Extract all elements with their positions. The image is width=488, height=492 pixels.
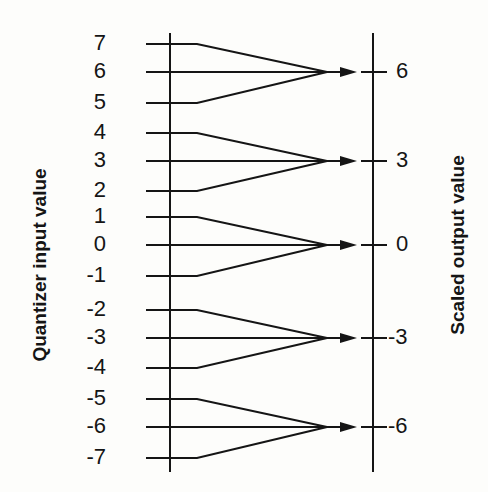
mapping-line <box>146 72 327 103</box>
mapping-line <box>146 399 327 427</box>
input-value-label: 7 <box>46 32 106 54</box>
input-value-label: 1 <box>46 205 106 227</box>
output-axis-title: Scaled output value <box>447 135 469 355</box>
input-value-label: 3 <box>46 149 106 171</box>
mapping-line <box>146 310 327 338</box>
input-value-label: 2 <box>46 179 106 201</box>
arrowhead-icon <box>340 333 357 343</box>
output-value-label: 0 <box>396 233 408 255</box>
input-value-label: 4 <box>46 121 106 143</box>
output-value-label: -3 <box>388 326 408 348</box>
mapping-line <box>146 217 327 245</box>
output-value-label: -6 <box>388 415 408 437</box>
mapping-line <box>146 44 327 72</box>
input-value-label: -6 <box>46 415 106 437</box>
mapping-lines <box>146 44 387 458</box>
mapping-line <box>146 427 327 458</box>
arrowhead-icon <box>340 156 357 166</box>
input-axis-title: Quantizer input value <box>29 155 51 375</box>
input-value-label: 6 <box>46 60 106 82</box>
output-value-label: 3 <box>396 149 408 171</box>
input-value-label: 5 <box>46 91 106 113</box>
arrowhead-icon <box>340 422 357 432</box>
input-value-label: 0 <box>46 233 106 255</box>
input-value-label: -3 <box>46 326 106 348</box>
mapping-line <box>146 133 327 161</box>
input-value-label: -4 <box>46 356 106 378</box>
input-value-label: -7 <box>46 446 106 468</box>
arrowhead-icon <box>340 67 357 77</box>
input-value-label: -1 <box>46 264 106 286</box>
mapping-line <box>146 161 327 191</box>
input-value-label: -2 <box>46 298 106 320</box>
mapping-line <box>146 245 327 276</box>
arrowhead-icon <box>340 240 357 250</box>
output-value-label: 6 <box>396 60 408 82</box>
input-value-label: -5 <box>46 387 106 409</box>
mapping-line <box>146 338 327 368</box>
